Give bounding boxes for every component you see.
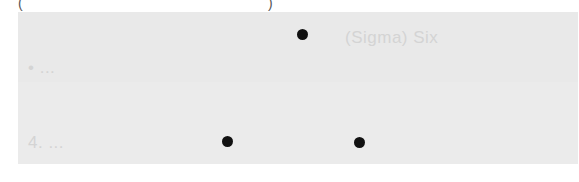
ghost-numbered-line: 4. ... [28, 133, 64, 153]
dot-bottom-right [354, 137, 365, 148]
open-paren-mark: ( [18, 0, 23, 10]
ghost-title-line: (Sigma) Six [345, 28, 438, 48]
ghost-bullet-line: • ... [28, 58, 55, 78]
gray-panel-upper [18, 12, 578, 82]
gray-panel-lower [18, 82, 578, 164]
dot-top [297, 29, 308, 40]
close-paren-mark: ) [268, 0, 273, 10]
dot-bottom-left [222, 136, 233, 147]
